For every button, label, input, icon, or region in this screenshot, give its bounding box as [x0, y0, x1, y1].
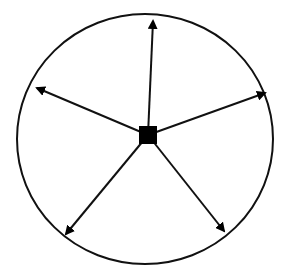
arrow-upper-left-icon — [37, 88, 148, 135]
arrow-up-icon — [148, 21, 153, 135]
radial-arrow-diagram — [0, 0, 290, 274]
arrow-lower-left-icon — [66, 135, 148, 234]
arrow-upper-right-icon — [148, 93, 265, 135]
arrow-lower-right-icon — [148, 135, 224, 231]
center-square-node — [139, 126, 157, 144]
